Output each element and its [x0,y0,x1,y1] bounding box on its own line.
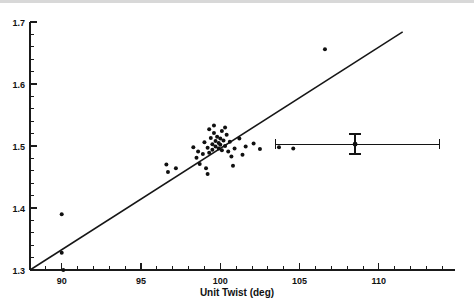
data-point [241,153,245,157]
data-point [206,172,210,176]
x-tick-label: 100 [213,276,228,286]
error-bar-center-point [353,142,358,147]
data-point [291,146,295,150]
data-point [252,142,256,146]
y-tick-label: 1.6 [12,80,25,90]
data-point [323,47,327,51]
data-point [195,156,199,160]
y-tick-label: 1.4 [12,204,25,214]
data-point [225,133,229,137]
x-tick-label: 90 [57,276,67,286]
data-point [191,145,195,149]
data-point [166,170,170,174]
data-point [231,164,235,168]
y-tick-label: 1.7 [12,18,25,28]
data-point [221,138,225,142]
data-point [61,268,65,272]
data-point [207,127,211,131]
data-point [206,146,210,150]
data-point [233,146,237,150]
x-axis-title: Unit Twist (deg) [200,287,274,298]
data-point [198,162,202,166]
data-point [228,140,232,144]
data-point [223,125,227,129]
data-point [210,142,214,146]
scatter-plot-canvas: 90951001051101.31.41.51.61.7 Unit Twist … [0,0,474,305]
data-point [220,129,224,133]
plot-axes [30,22,455,270]
error-bar-marker [276,134,439,154]
data-point [201,152,205,156]
x-tick-label: 95 [136,276,146,286]
data-point [204,166,208,170]
data-point [202,140,206,144]
x-tick-label: 105 [292,276,307,286]
data-points-group [60,47,327,272]
data-point [223,144,227,148]
data-point [196,150,200,154]
data-point [226,150,230,154]
data-point [209,136,213,140]
y-tick-label: 1.3 [12,266,25,276]
fit-line-segment [30,32,403,270]
scan-edge-band [0,0,474,3]
x-tick-label: 110 [372,276,387,286]
data-point [277,145,281,149]
data-point [174,166,178,170]
data-point [212,124,216,128]
y-tick-label: 1.5 [12,142,25,152]
data-point [220,148,224,152]
data-point [218,143,222,147]
chart-figure: 90951001051101.31.41.51.61.7 Unit Twist … [0,0,474,305]
data-point [244,145,248,149]
data-point [210,148,214,152]
data-point [258,147,262,151]
data-point [212,131,216,135]
data-point [60,212,64,216]
data-point [164,163,168,167]
data-point [229,155,233,159]
data-point [207,151,211,155]
data-point [237,137,241,141]
data-point [60,251,64,255]
regression-fit-line [30,32,403,270]
